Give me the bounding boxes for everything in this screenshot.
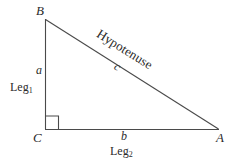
leg1-label: Leg1 [10, 81, 33, 93]
side-label-c: c [111, 59, 123, 75]
leg2-label: Leg2 [110, 145, 133, 157]
right-angle-marker-icon [46, 116, 59, 129]
vertex-label-b: B [36, 4, 44, 17]
leg2-label-subscript: 2 [129, 150, 133, 159]
right-triangle-diagram: B C A a b Leg1 Leg2 Hypotenuse c [0, 0, 232, 167]
side-label-a: a [36, 64, 42, 76]
vertex-label-a: A [216, 131, 224, 144]
side-label-b: b [121, 130, 127, 142]
vertex-label-c: C [33, 131, 42, 144]
leg2-label-text: Leg [110, 144, 129, 158]
leg1-label-subscript: 1 [29, 86, 33, 95]
leg1-label-text: Leg [10, 80, 29, 94]
